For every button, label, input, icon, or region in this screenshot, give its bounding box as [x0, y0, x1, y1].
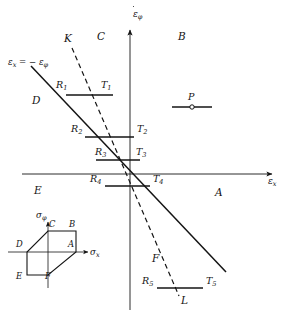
inset-vertex-label-e: E [16, 272, 22, 280]
tie-label-r4-sub: 4 [97, 178, 101, 186]
tie-label-r5-sub: 5 [149, 280, 153, 288]
inset-vertex-label-a: A [68, 240, 74, 248]
strain-rate-diagram: εφ εx εx = − εφ K L A B C D E F R1 T1 R2… [0, 0, 291, 318]
inset-y-axis-subscript: φ [42, 214, 47, 222]
equation-sub1: x [13, 61, 17, 69]
x-axis-subscript: x [273, 180, 277, 188]
diagram-canvas [0, 0, 291, 318]
tie-label-r2: R2 [71, 124, 82, 135]
equation-sub2: φ [44, 61, 49, 69]
dashed-line-KL [72, 48, 179, 296]
inset-y-axis-label: σφ [36, 211, 47, 221]
inset-vertex-label-b: B [69, 220, 75, 228]
tie-label-t4-sub: 4 [159, 178, 163, 186]
y-axis-subscript: φ [138, 13, 143, 21]
point-p-marker [190, 105, 194, 109]
region-label-f: F [152, 253, 159, 264]
y-axis-label: εφ [133, 10, 142, 20]
inset-vertex-label-d: D [16, 240, 23, 248]
y-axis-symbol: ε [133, 9, 138, 19]
tie-label-r2-sub: 2 [78, 128, 82, 136]
tie-label-r1-sub: 1 [63, 84, 67, 92]
tie-label-t5-sub: 5 [212, 280, 216, 288]
inset-x-axis-subscript: x [96, 251, 100, 259]
equation-label: εx = − εφ [8, 58, 48, 68]
inset-hexagon [27, 231, 76, 275]
region-label-d: D [32, 95, 40, 106]
tie-label-t2-sub: 2 [143, 128, 147, 136]
tie-label-t5: T5 [206, 276, 217, 287]
tie-label-t1: T1 [101, 80, 112, 91]
tie-label-r3-sub: 3 [102, 151, 106, 159]
solid-yield-line [31, 66, 226, 272]
tie-label-r5: R5 [142, 276, 153, 287]
x-axis-label: εx [268, 177, 277, 187]
line-label-l: L [181, 295, 188, 306]
point-p-label: P [188, 92, 194, 102]
inset-vertex-label-f: F [45, 272, 51, 280]
line-label-k: K [64, 33, 72, 44]
tie-label-t4: T4 [153, 174, 164, 185]
tie-label-t3: T3 [136, 147, 147, 158]
inset-x-axis-label: σx [90, 248, 100, 258]
tie-label-r3: R3 [95, 147, 106, 158]
region-label-c: C [97, 31, 105, 42]
inset-vertex-label-c: C [49, 220, 55, 228]
equation-operator: = − [19, 57, 36, 67]
tie-label-t3-sub: 3 [142, 151, 146, 159]
x-axis-symbol: ε [268, 176, 273, 186]
region-label-e: E [34, 185, 42, 196]
region-label-a: A [215, 187, 223, 198]
tie-label-t2: T2 [137, 124, 148, 135]
region-label-b: B [178, 31, 186, 42]
tie-label-r1: R1 [56, 80, 67, 91]
tie-label-r4: R4 [90, 174, 101, 185]
tie-label-t1-sub: 1 [107, 84, 111, 92]
